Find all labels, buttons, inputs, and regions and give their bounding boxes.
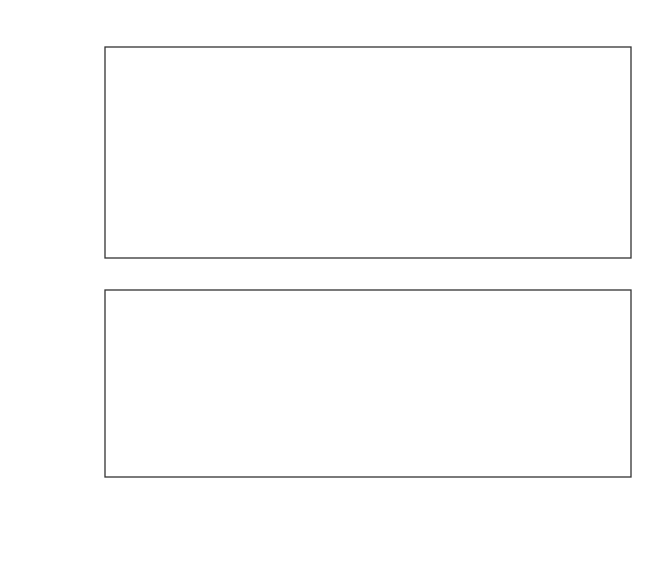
phase-frame [105,290,631,477]
bode-plot [0,0,662,572]
magnitude-frame [105,47,631,258]
magnitude-axes [105,47,631,258]
phase-axes [0,0,631,477]
